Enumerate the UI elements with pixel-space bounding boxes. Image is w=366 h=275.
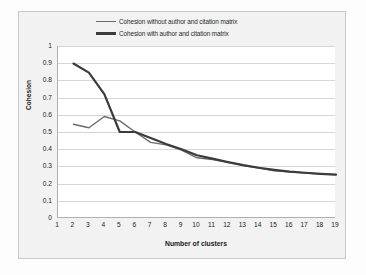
chart-container: Cohesion without author and citation mat… xyxy=(0,0,366,275)
x-tick-label: 6 xyxy=(132,222,136,229)
y-tick-label: 0 xyxy=(26,215,52,222)
legend-item-without-matrix: Cohesion without author and citation mat… xyxy=(96,16,336,27)
x-axis-title: Number of clusters xyxy=(57,240,335,247)
y-tick-label: 0.4 xyxy=(26,146,52,153)
x-tick-label: 5 xyxy=(117,222,121,229)
x-tick-label: 4 xyxy=(101,222,105,229)
x-axis-ticks: 12345678910111213141516171819 xyxy=(57,222,335,234)
x-tick-label: 9 xyxy=(179,222,183,229)
x-tick-label: 18 xyxy=(316,222,323,229)
x-tick-label: 1 xyxy=(55,222,59,229)
y-axis-ticks: 00.10.20.30.40.50.60.70.80.91 xyxy=(0,46,366,218)
x-tick-label: 19 xyxy=(331,222,338,229)
y-axis-title: Cohesion xyxy=(25,80,32,110)
x-tick-label: 13 xyxy=(239,222,246,229)
x-tick-label: 10 xyxy=(192,222,199,229)
legend-label-series-1: Cohesion without author and citation mat… xyxy=(119,18,237,25)
y-tick-label: 0.9 xyxy=(26,60,52,67)
legend-swatch-series-2 xyxy=(96,32,116,34)
legend-item-with-matrix: Cohesion with author and citation matrix xyxy=(96,28,336,39)
y-tick-label: 0.3 xyxy=(26,163,52,170)
y-tick-label: 0.1 xyxy=(26,198,52,205)
legend-swatch-series-1 xyxy=(96,21,116,22)
y-tick-label: 1 xyxy=(26,43,52,50)
y-tick-label: 0.5 xyxy=(26,129,52,136)
legend-label-series-2: Cohesion with author and citation matrix xyxy=(119,30,229,37)
x-tick-label: 2 xyxy=(71,222,75,229)
x-tick-label: 15 xyxy=(270,222,277,229)
x-tick-label: 11 xyxy=(208,222,215,229)
x-tick-label: 14 xyxy=(254,222,261,229)
x-tick-label: 8 xyxy=(163,222,167,229)
chart-legend: Cohesion without author and citation mat… xyxy=(96,16,336,40)
x-tick-label: 16 xyxy=(285,222,292,229)
y-tick-label: 0.6 xyxy=(26,112,52,119)
x-tick-label: 12 xyxy=(223,222,230,229)
x-tick-label: 7 xyxy=(148,222,152,229)
x-tick-label: 17 xyxy=(300,222,307,229)
x-tick-label: 3 xyxy=(86,222,90,229)
y-tick-label: 0.2 xyxy=(26,181,52,188)
